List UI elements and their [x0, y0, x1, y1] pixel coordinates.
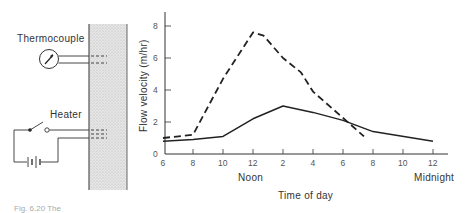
x-ticks: 68101224681012: [161, 149, 438, 168]
x-tick-label: 2: [281, 158, 286, 168]
x-tick-label: 12: [248, 158, 258, 168]
tree-trunk: [89, 24, 127, 190]
noon-label: Noon: [238, 172, 263, 183]
y-tick-label: 0: [153, 149, 158, 159]
figure-caption: Fig. 6.20 The: [14, 204, 62, 213]
y-axis-label: Flow velocity (m/hr): [138, 39, 149, 132]
midnight-label: Midnight: [414, 172, 454, 183]
chart: 02468 68101224681012: [153, 12, 448, 168]
switch-lever-icon: [30, 122, 43, 130]
battery-icon: [28, 156, 40, 168]
y-tick-label: 4: [153, 85, 158, 95]
x-tick-label: 6: [161, 158, 166, 168]
heater-label: Heater: [50, 109, 82, 120]
x-tick-label: 8: [191, 158, 196, 168]
x-tick-label: 10: [398, 158, 408, 168]
x-tick-label: 12: [428, 158, 438, 168]
data-series: [163, 32, 433, 141]
solid-series-line: [163, 106, 433, 141]
y-tick-label: 2: [153, 117, 158, 127]
x-tick-label: 6: [341, 158, 346, 168]
x-tick-label: 4: [311, 158, 316, 168]
y-tick-label: 8: [153, 21, 158, 31]
x-tick-label: 8: [371, 158, 376, 168]
dashed-series-line: [163, 32, 364, 138]
y-tick-label: 6: [153, 53, 158, 63]
x-tick-label: 10: [218, 158, 228, 168]
x-axis-label: Time of day: [278, 190, 333, 201]
thermocouple-label: Thermocouple: [17, 33, 85, 44]
figure-canvas: Thermocouple Heater 02468 68101224681012…: [0, 0, 466, 213]
